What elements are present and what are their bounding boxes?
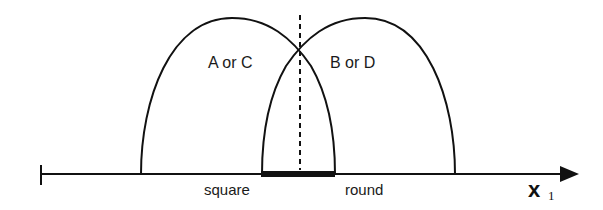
curve-label-b-or-d: B or D — [330, 54, 375, 71]
curve-label-a-or-c: A or C — [208, 54, 252, 71]
x-axis-arrowhead-icon — [560, 166, 579, 182]
region-label-round: round — [345, 181, 383, 198]
region-label-square: square — [204, 181, 250, 198]
overlap-region-bar — [261, 171, 335, 177]
x-axis-label-subscript: 1 — [548, 188, 555, 203]
diagram-canvas: A or C B or D square round x 1 — [0, 0, 603, 210]
x-axis-label: x — [528, 177, 541, 202]
